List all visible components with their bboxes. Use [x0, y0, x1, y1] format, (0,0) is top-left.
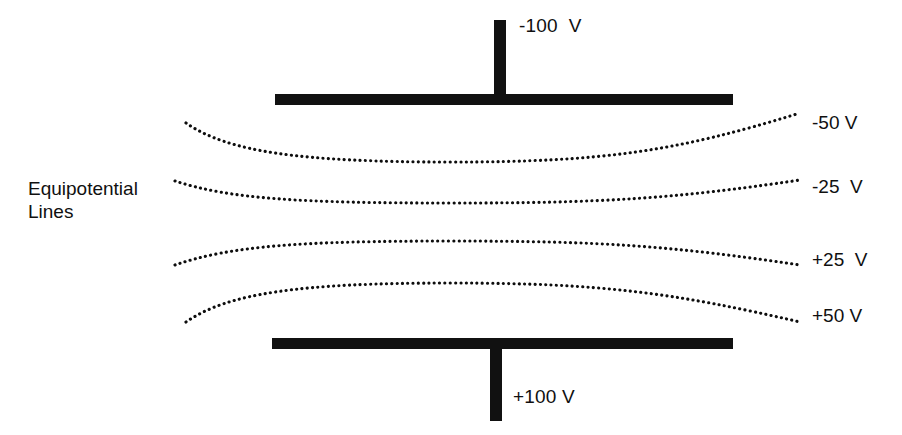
- equipotential-curve-minus-50: [186, 113, 800, 162]
- equipotential-curves-group: [0, 0, 902, 435]
- equipotential-label-plus-50: +50 V: [812, 305, 862, 327]
- equipotential-curve-plus-50: [186, 283, 800, 322]
- equipotential-curve-plus-25: [175, 241, 800, 265]
- equipotential-label-minus-50: -50 V: [812, 112, 857, 134]
- equipotential-label-plus-25: +25 V: [812, 249, 867, 271]
- equipotential-label-minus-25: -25 V: [812, 176, 863, 198]
- equipotential-curve-minus-25: [175, 180, 800, 203]
- figure-canvas: -100 V +100 V Equipotential Lines -50 V …: [0, 0, 902, 435]
